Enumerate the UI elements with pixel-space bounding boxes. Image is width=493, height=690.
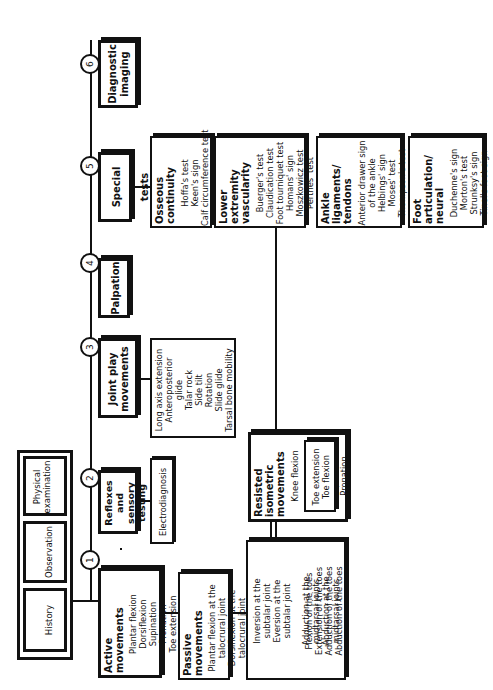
step-number-5: 5 — [80, 156, 100, 176]
joint-play-list: Long axis extension Anteroposterior glid… — [154, 344, 236, 436]
passive-movements-box: Passive movements Plantar flexion at the… — [178, 572, 230, 680]
joint-play-box: Joint play movements — [98, 338, 138, 418]
connector-reflexes-electro — [120, 548, 122, 550]
reflexes-sensory-box: Reflexes and sensory testing — [98, 470, 138, 534]
special-test-osseous-content: Osseous continuity Hoffa's test Keen's s… — [154, 140, 210, 226]
electrodiagnosis-box: Electrodiagnosis — [150, 458, 174, 544]
step-number-4: 4 — [80, 253, 100, 273]
connector-history-active — [70, 600, 92, 602]
history-box: History — [23, 588, 67, 652]
step-number-1: 1 — [80, 550, 100, 570]
active-movements-title: Active movements — [103, 573, 125, 675]
special-test-vascularity-content: Lower extremity vascularity Buerger's te… — [218, 140, 304, 226]
connector-passive-cont — [230, 612, 246, 614]
special-tests-title: Special tests — [103, 155, 131, 219]
main-spine — [90, 40, 92, 600]
special-test-osseous-box: Osseous continuity Hoffa's test Keen's s… — [150, 136, 212, 228]
active-movements-box: Active movements Plantar flexion Dorsifl… — [98, 568, 162, 678]
passive-toes-content: Flexion of the toes Extension of the toe… — [304, 546, 344, 676]
special-tests-box: Special tests — [98, 152, 132, 222]
step-number-3: 3 — [80, 337, 100, 357]
observation-label: Observation — [34, 524, 64, 580]
special-test-vascularity-box: Lower extremity vascularity Buerger's te… — [214, 136, 306, 228]
diagnostic-imaging-title: Diagnostic imaging — [103, 43, 137, 105]
history-label: History — [34, 591, 64, 649]
step-number-2: 2 — [80, 468, 100, 488]
passive-movements-content: Passive movements Plantar flexion at the… — [182, 578, 228, 678]
observation-box: Observation — [23, 521, 67, 583]
electrodiagnosis-label: Electrodiagnosis — [153, 462, 173, 542]
resisted-isometric-title: Resisted isometric movements — [253, 433, 286, 519]
physical-examination-box: Physical examination — [23, 456, 67, 516]
passive-movements-continued-box: Inversion at the subtalar joint Eversion… — [246, 540, 346, 680]
intake-group: History Observation Physical examination — [17, 450, 73, 660]
joint-play-title: Joint play movements — [103, 343, 137, 415]
step-number-6: 6 — [80, 54, 100, 74]
connector-special-subtests — [132, 186, 152, 188]
joint-play-list-box: Long axis extension Anteroposterior glid… — [150, 338, 236, 438]
palpation-title: Palpation — [103, 261, 129, 315]
special-test-foot-box: Foot articulation/ neural Duchenne's sig… — [408, 136, 484, 228]
connector-joint-play-list — [138, 378, 150, 380]
special-test-ankle-box: Ankle ligaments/ tendons Anterior drawer… — [316, 136, 402, 228]
resisted-toes-box: Toe extension Toe flexion — [304, 440, 336, 512]
active-movements-content: Active movements Plantar flexion Dorsifl… — [103, 573, 161, 675]
active-movements-list: Plantar flexion Dorsiflexion Supination … — [128, 573, 178, 675]
physical-examination-label: Physical examination — [32, 459, 66, 515]
connector-active-passive — [162, 612, 178, 614]
diagnostic-imaging-box: Diagnostic imaging — [98, 40, 138, 108]
special-test-ankle-content: Ankle ligaments/ tendons Anterior drawer… — [320, 140, 400, 226]
palpation-box: Palpation — [98, 258, 130, 318]
passive-movements-list: Plantar flexion at the talocrural joint … — [207, 578, 247, 678]
resisted-toes-list: Toe extension Toe flexion — [308, 444, 336, 510]
reflexes-sensory-title: Reflexes and sensory testing — [103, 475, 137, 531]
connector-passive-resisted — [270, 520, 272, 540]
special-test-foot-content: Foot articulation/ neural Duchenne's sig… — [412, 140, 482, 226]
passive-movements-title: Passive movements — [182, 578, 204, 678]
connector-reflexes-electrodiagnosis — [138, 500, 150, 502]
